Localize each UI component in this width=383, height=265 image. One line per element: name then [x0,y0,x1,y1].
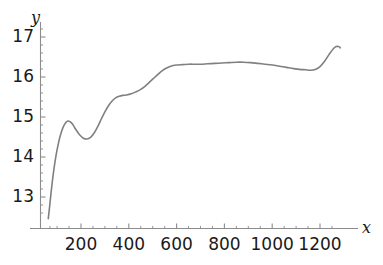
y-tick-label: 15 [0,108,34,125]
tick-marks-group [41,29,332,229]
axes-group [30,22,358,229]
x-tick-label: 1200 [290,236,350,253]
y-tick-label: 14 [0,148,34,165]
y-tick-label: 13 [0,188,34,205]
x-axis-label: x [362,220,371,236]
y-tick-label: 16 [0,68,34,85]
data-series-group [48,46,340,218]
chart-container: y x 1314151617 20040060080010001200 [0,0,383,265]
plot-area [0,0,383,265]
y-axis-label: y [31,10,40,26]
data-line-curve [48,46,340,218]
y-tick-label: 17 [0,28,34,45]
